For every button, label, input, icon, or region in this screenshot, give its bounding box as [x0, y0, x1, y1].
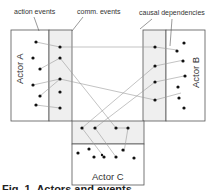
actor-event-diagram: Actor A Actor B Actor C [0, 0, 216, 190]
caption-text: Fig. 1. Actors and events [2, 183, 132, 190]
label-action-events: action events [14, 8, 56, 15]
actor-b-box: Actor B [143, 30, 205, 121]
figure-caption: Fig. 1. Actors and events [2, 183, 132, 190]
actor-a-label: Actor A [14, 53, 25, 84]
label-comm-events: comm. events [77, 8, 121, 15]
label-causal-dependencies: causal dependencies [139, 9, 205, 17]
actor-b-label: Actor B [190, 57, 201, 88]
actor-c-box: Actor C [72, 121, 144, 185]
actor-c-label: Actor C [92, 171, 124, 182]
actor-a-box: Actor A [11, 30, 72, 121]
